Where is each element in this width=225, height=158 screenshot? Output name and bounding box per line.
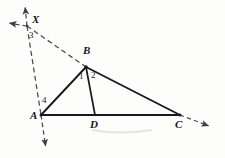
vertex-dot-x [26,25,29,28]
point-label-d: D [90,119,98,130]
geometry-figure: A B C D X 1 2 3 4 [0,0,225,158]
dashed-line-xbc [10,23,209,126]
dashed-line-xa [25,8,45,147]
paper-smudge [92,130,152,133]
dashed-segment-x-to-b [27,26,86,67]
point-label-a: A [30,110,37,121]
point-label-x: X [32,14,39,25]
angle-label-2: 2 [91,71,96,80]
angle-label-3: 3 [29,31,34,40]
point-label-c: C [175,119,182,130]
vertex-dot-b [84,65,87,68]
segment-bc [86,67,180,115]
triangle-abc [41,67,180,115]
vertex-dot-a [40,114,43,117]
dashed-ray-c-lowerright [180,115,209,126]
vertex-dot-c [179,114,182,117]
angle-label-1: 1 [79,72,84,81]
dashed-ray-x-up [25,8,27,27]
dashed-ray-a-down [41,115,46,146]
dashed-ray-x-upperleft [10,23,28,26]
point-label-b: B [83,45,90,56]
angle-label-4: 4 [42,96,47,105]
